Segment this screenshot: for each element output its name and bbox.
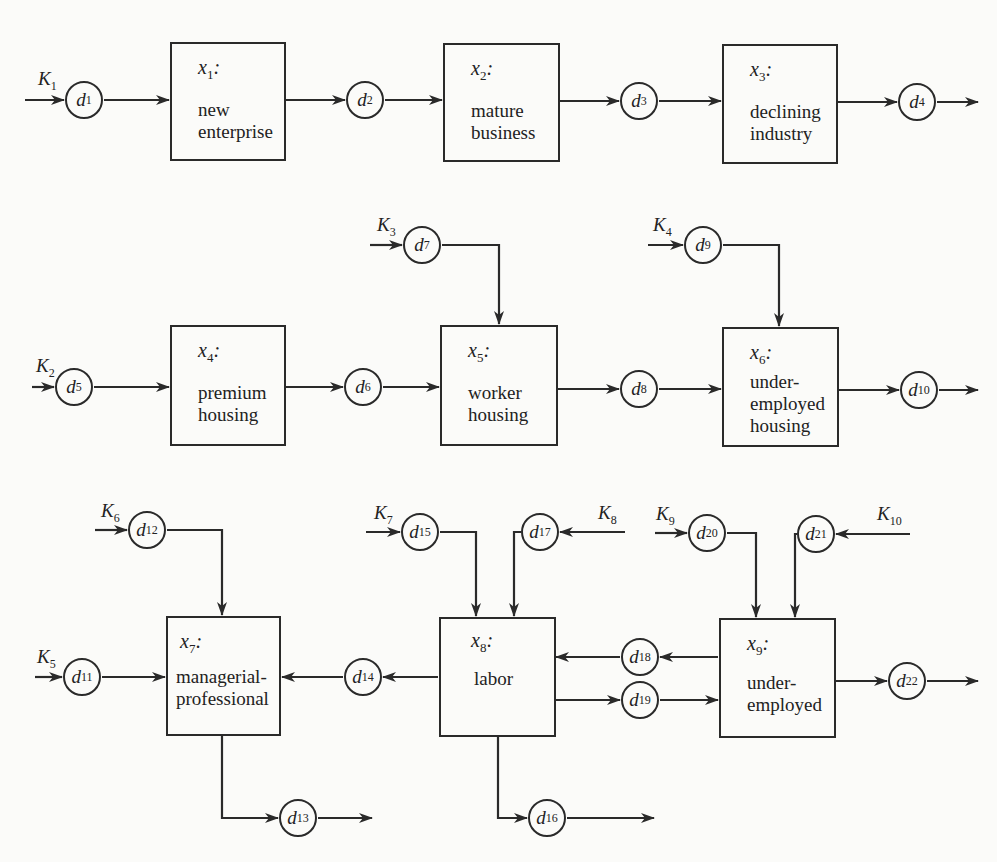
stock-variable: x9: (747, 632, 769, 659)
flow-node-d5: d5 (55, 368, 93, 406)
stock-box-x9: x9: under- employed (719, 618, 836, 738)
stock-label: worker housing (468, 382, 528, 426)
stock-box-x7: x7: managerial- professional (166, 616, 281, 736)
stock-variable: x8: (471, 629, 493, 656)
flow-node-d16: d16 (528, 799, 566, 837)
stock-label: under- employed housing (750, 371, 825, 437)
flow-node-d9: d9 (684, 226, 722, 264)
flow-node-d2: d2 (346, 81, 384, 119)
stock-variable: x2: (471, 57, 493, 84)
stock-box-x5: x5: worker housing (440, 325, 558, 446)
input-label-K9: K9 (656, 503, 675, 529)
flow-node-d10: d10 (900, 371, 938, 409)
input-label-K5: K5 (37, 646, 56, 672)
flow-node-d1: d1 (65, 81, 103, 119)
flow-node-d21: d21 (797, 515, 835, 553)
input-label-K6: K6 (101, 500, 120, 526)
flow-node-d12: d12 (128, 511, 166, 549)
flow-node-d15: d15 (401, 513, 439, 551)
flow-node-d22: d22 (888, 662, 926, 700)
stock-box-x1: x1: new enterprise (170, 42, 286, 161)
flow-node-d20: d20 (688, 514, 726, 552)
stock-box-x4: x4: premium housing (170, 325, 286, 446)
flow-node-d13: d13 (279, 799, 317, 837)
flow-node-d11: d11 (63, 658, 101, 696)
input-label-K2: K2 (36, 355, 55, 381)
stock-box-x2: x2: mature business (443, 43, 560, 162)
flow-node-d4: d4 (898, 83, 936, 121)
stock-box-x8: x8: labor (439, 617, 556, 737)
flow-node-d8: d8 (620, 370, 658, 408)
stock-variable: x4: (198, 339, 220, 366)
stock-label: declining industry (750, 101, 821, 145)
stock-box-x3: x3: declining industry (722, 44, 838, 164)
stock-variable: x7: (180, 630, 202, 657)
flow-node-d3: d3 (620, 82, 658, 120)
stock-variable: x5: (468, 339, 490, 366)
stock-label: labor (474, 668, 513, 690)
flow-node-d14: d14 (344, 658, 382, 696)
stock-box-x6: x6: under- employed housing (722, 327, 839, 447)
stock-variable: x3: (750, 58, 772, 85)
flow-node-d19: d19 (621, 681, 659, 719)
input-label-K7: K7 (374, 502, 393, 528)
flow-node-d18: d18 (621, 638, 659, 676)
stock-label: under- employed (747, 672, 822, 716)
stock-label: premium housing (198, 382, 267, 426)
flow-node-d17: d17 (521, 513, 559, 551)
stock-variable: x6: (750, 341, 772, 368)
flow-node-d6: d6 (344, 368, 382, 406)
input-label-K3: K3 (377, 214, 396, 240)
stock-label: managerial- professional (176, 666, 269, 710)
stock-label: new enterprise (198, 99, 273, 143)
input-label-K1: K1 (38, 68, 57, 94)
flow-node-d7: d7 (403, 226, 441, 264)
stock-label: mature business (471, 100, 535, 144)
input-label-K8: K8 (598, 502, 617, 528)
input-label-K10: K10 (877, 503, 902, 529)
stock-variable: x1: (198, 56, 220, 83)
input-label-K4: K4 (653, 214, 672, 240)
